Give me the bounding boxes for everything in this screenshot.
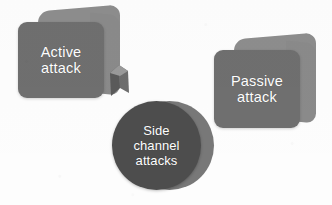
side-channel-attacks-front-disc[interactable]: Side channel attacks bbox=[112, 101, 201, 190]
side-channel-attacks-label: Side channel attacks bbox=[133, 123, 179, 168]
diagram-canvas: Active attack Passive attack Side channe… bbox=[0, 0, 332, 205]
active-attack-front-panel[interactable]: Active attack bbox=[18, 22, 104, 98]
arrow-wedge-shape bbox=[108, 62, 130, 96]
node-side-channel-attacks[interactable]: Side channel attacks bbox=[111, 99, 215, 195]
passive-attack-label: Passive attack bbox=[231, 73, 283, 105]
passive-attack-front-panel[interactable]: Passive attack bbox=[214, 50, 300, 128]
node-passive-attack[interactable]: Passive attack bbox=[212, 36, 328, 132]
active-attack-label: Active attack bbox=[41, 44, 82, 76]
active-to-circle-arrow-icon bbox=[108, 62, 130, 96]
